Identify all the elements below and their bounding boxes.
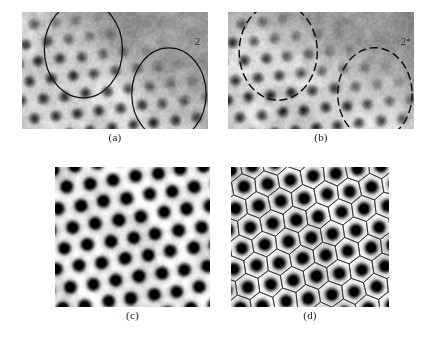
panel-c-caption: (c) [55, 309, 210, 321]
panel-c [55, 167, 210, 307]
panel-b-image [228, 12, 414, 129]
panel-a-caption: (a) [22, 131, 208, 143]
figure-root: 1 2 (a) 1 2* (b) (c) (d) [0, 0, 441, 341]
panel-d [231, 167, 389, 307]
panel-a: 1 2 [22, 12, 208, 129]
panel-c-image [55, 167, 210, 307]
panel-d-caption: (d) [231, 309, 389, 321]
panel-b-marker-label-2: 2* [401, 36, 411, 47]
panel-b-caption: (b) [228, 131, 414, 143]
panel-a-marker-label-2: 2 [195, 36, 200, 47]
panel-a-image [22, 12, 208, 129]
panel-d-image [231, 167, 389, 307]
panel-b: 1 2* [228, 12, 414, 129]
